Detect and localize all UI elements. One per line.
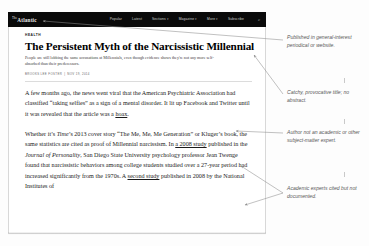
article-paragraph: Whether it’s Time’s 2013 cover story “Th… — [25, 129, 252, 192]
site-navbar: TheAtlantic Popular Latest Sections▾ Mag… — [8, 12, 266, 27]
inline-link[interactable]: hoax — [115, 111, 127, 117]
paragraph-text: published in the — [207, 141, 248, 147]
nav-item-popular[interactable]: Popular — [110, 18, 122, 21]
byline-separator: | — [64, 72, 65, 76]
annotation-catchy-title: Catchy, provocative title; no abstract. — [287, 89, 361, 104]
chevron-down-icon: ▾ — [167, 18, 169, 21]
byline-rule — [25, 81, 252, 82]
paragraph-text: . — [127, 111, 129, 117]
annotation-divider — [344, 119, 345, 124]
site-logo-name: Atlantic — [17, 16, 36, 22]
nav-item-more[interactable]: More▾ — [207, 18, 218, 22]
paragraph-text: Whether it’s — [25, 131, 57, 137]
page-edge-shadow — [8, 232, 266, 235]
chevron-down-icon: ▾ — [216, 18, 218, 21]
annotation-experts-not-documented: Academic experts cited but not documente… — [287, 185, 361, 200]
chevron-down-icon: ▾ — [195, 18, 197, 21]
nav-item-sections[interactable]: Sections▾ — [152, 18, 169, 22]
screenshot-root: TheAtlantic Popular Latest Sections▾ Mag… — [0, 0, 369, 246]
italic-title: Journal of Personality — [25, 152, 80, 158]
article-dek: People are still lobbing the same accusa… — [25, 55, 215, 68]
nav-links: Popular Latest Sections▾ Magazine▾ More▾… — [110, 18, 262, 22]
nav-item-subscribe-label: Subscribe — [228, 17, 244, 21]
inline-link[interactable]: a 2008 study — [175, 141, 206, 147]
annotation-author-not-expert: Author not an academic or other subject-… — [287, 129, 361, 144]
nav-item-popular-label: Popular — [110, 17, 122, 21]
site-logo[interactable]: TheAtlantic — [12, 17, 37, 23]
italic-title: Time — [57, 131, 69, 137]
nav-item-latest[interactable]: Latest — [132, 18, 142, 21]
nav-item-subscribe[interactable]: Subscribe — [228, 18, 244, 21]
article-paragraph: A few months ago, the news went viral th… — [25, 88, 252, 120]
nav-item-sections-label: Sections — [152, 17, 166, 21]
search-icon[interactable]: ⌕ — [258, 18, 260, 22]
byline-date: NOV 19, 2014 — [67, 72, 90, 76]
nav-item-magazine-label: Magazine — [179, 17, 195, 21]
article-body: HEALTH The Persistent Myth of the Narcis… — [8, 27, 266, 201]
article-byline: BROOKS LEE FOSTER|NOV 19, 2014 — [25, 72, 252, 76]
byline-author[interactable]: BROOKS LEE FOSTER — [25, 72, 62, 76]
article-kicker[interactable]: HEALTH — [25, 33, 252, 37]
paragraph-text: A few months ago, the news went viral th… — [25, 90, 250, 117]
annotation-published-in: Published in general-interest periodical… — [287, 34, 361, 49]
page-title: The Persistent Myth of the Narcissistic … — [25, 40, 252, 52]
inline-link[interactable]: second study — [128, 173, 160, 179]
nav-item-latest-label: Latest — [132, 17, 142, 21]
annotation-divider — [344, 172, 345, 177]
nav-item-magazine[interactable]: Magazine▾ — [179, 18, 197, 22]
annotation-divider — [344, 78, 345, 83]
nav-item-more-label: More — [207, 17, 215, 21]
